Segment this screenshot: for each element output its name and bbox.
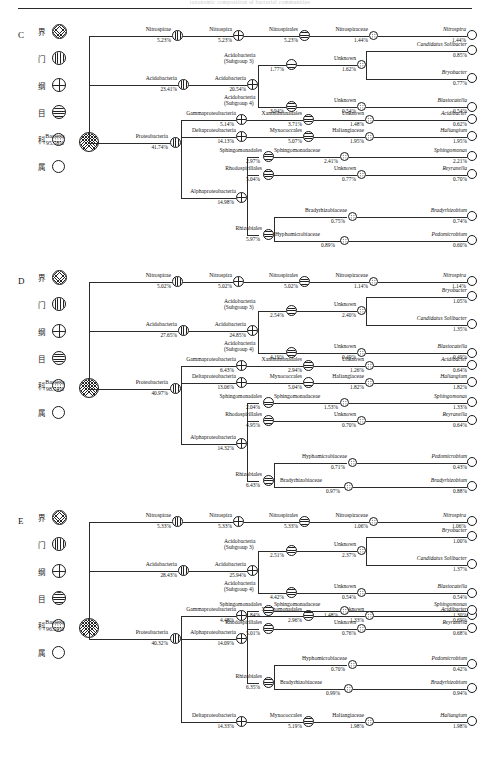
root-branch-acido-C	[89, 85, 119, 86]
order-pct-sphingomonadales-D: 2.04%	[200, 404, 260, 410]
edge-family-genus-bradyrhizobium-D	[353, 487, 467, 488]
family-node-haliangiaceae-E	[365, 717, 374, 726]
order-pct-sphingomonadales-E: 1.84%	[200, 612, 260, 618]
genus-pct-sphingomonas-C: 2.21%	[404, 158, 467, 164]
class-node-icon	[52, 324, 66, 338]
edge-order-family-nitrospiraceae-D	[310, 282, 369, 283]
family-node-sg3-D	[357, 306, 366, 315]
order-node-rhizobiales-C	[263, 229, 274, 240]
family-label-sphingomonadaceae-C: Sphingomonadaceae	[274, 147, 340, 153]
family-label-nitrospiraceae-D: Nitrospiraceae	[312, 272, 368, 278]
order-pct-myxococcales-C: 5.07%	[250, 138, 302, 144]
edge-order-family-nitrospiraceae-C	[310, 36, 369, 37]
phylum-label-acidobacteria-C: Acidobacteria	[119, 75, 177, 81]
phylum-pct-nitrospirae-C: 5.23%	[119, 37, 171, 43]
genus-pct-blastocatella-E: 0.54%	[400, 594, 467, 600]
family-node-sphingomonadaceae-D	[340, 398, 349, 407]
genus-node-haliangium-D	[467, 377, 477, 387]
family-label-sg4-C: Unknown	[306, 97, 356, 103]
top-rule-divider	[18, 8, 472, 9]
order-node-icon	[52, 105, 66, 119]
class-pct-acidobacteria-C: 20.54%	[190, 86, 246, 92]
genus-node-nitrospira-E	[467, 516, 477, 526]
legend-row-kingdom-D: 界	[36, 270, 67, 284]
root-branch-nitrospirae-C	[89, 36, 119, 37]
class-label-delta-E: Deltaproteobacteria	[160, 712, 236, 718]
order-pct-nitrospirales-D: 5.02%	[246, 283, 298, 289]
order-label-nitrospirales-D: Nitrospirales	[246, 272, 298, 278]
genus-label-bradyrhizobium-C: Bradyrhizobium	[400, 207, 467, 213]
legend-row-class-E: 纲	[36, 564, 66, 578]
genus-label-sphingomonas-C: Sphingomonas	[404, 147, 467, 153]
order-node-rhodospirillales-D	[263, 415, 274, 426]
order-label-nitrospirales-E: Nitrospirales	[246, 512, 298, 518]
order-node-xanthomonadales-D	[303, 360, 314, 371]
rhizobiales-split-D	[274, 463, 275, 487]
order-node-sphingomonadales-D	[263, 397, 274, 408]
family-label-rhodo-D: Unknown	[306, 411, 356, 417]
panel-letter-C: C	[18, 30, 24, 40]
genus-pct-solibacter-E: 1.37%	[378, 566, 467, 572]
phylum-pct-acidobacteria-E: 28.43%	[119, 572, 177, 578]
genus-node-sphingomonas-E	[467, 605, 477, 615]
edge-family-genus-reyranella-C	[366, 175, 467, 176]
order-node-icon	[52, 591, 66, 605]
genus-pct-pedomicrobium-D: 0.43%	[402, 464, 467, 470]
edge-family-genus-reyranella-E	[366, 629, 467, 630]
legend-row-class: 纲	[36, 78, 66, 92]
edge-root-nitrospirae-E	[119, 522, 172, 523]
class-label-nitrospira-C: Nitrospira	[186, 26, 232, 32]
genus-pct-haliangium-E: 1.98%	[408, 723, 467, 729]
edge-order-family-rhodo-C	[274, 175, 357, 176]
family-pct-hyphomicrobiaceae-D: 0.71%	[285, 464, 345, 470]
genus-node-solibacter-E	[467, 559, 477, 569]
family-pct-sphingomonadaceae-D: 1.53%	[274, 404, 338, 410]
class-pct-delta-E: 14.33%	[160, 723, 234, 729]
class-pct-acidobacteria-E: 25.94%	[190, 572, 246, 578]
genus-node-blastocatella-E	[467, 588, 477, 598]
family-label-gamma-C: Unknown	[316, 110, 364, 116]
genus-pct-reyranella-E: 0.68%	[408, 630, 467, 636]
edge-family-genus-bradyrhizobium-E	[353, 689, 467, 690]
genus-node-reyranella-E	[467, 623, 477, 633]
edge-order-family-sg3-E	[297, 551, 357, 552]
class-label-alpha-D: Alphaproteobacteria	[160, 434, 236, 440]
order-pct-myxococcales-E: 5.19%	[250, 723, 302, 729]
family-label-haliangiaceae-C: Haliangiaceae	[310, 127, 364, 133]
order-node-icon	[52, 351, 66, 365]
legend-row-genus-E: 属	[36, 645, 65, 659]
edge-phylum-class-acidobacteria-C	[189, 85, 247, 86]
legend-row-class-D: 纲	[36, 324, 66, 338]
family-node-rhodo-E	[357, 624, 366, 633]
genus-pct-sphingomonas-E: 1.30%	[404, 612, 467, 618]
panel-letter-E: E	[18, 516, 24, 526]
order-node-nitrospirales-D	[299, 276, 310, 287]
genus-node-sphingomonas-C	[467, 151, 477, 161]
family-pct-sg3-E: 2.37%	[306, 552, 356, 558]
class-node-icon	[52, 564, 66, 578]
family-split-sg3-C	[366, 51, 367, 79]
family-node-nitrospiraceae-D	[369, 277, 378, 286]
legend-label-phylum-E: 门	[36, 539, 47, 550]
family-label-hyphomicrobiaceae-D: Hyphomicrobiaceae	[285, 453, 347, 459]
genus-node-bradyrhizobium-C	[467, 211, 477, 221]
genus-node-pedomicrobium-C	[467, 235, 477, 245]
family-label-sg3-D: Unknown	[306, 301, 356, 307]
family-pct-sphingomonadaceae-C: 2.41%	[274, 158, 338, 164]
genus-label-haliangium-C: Haliangium	[408, 127, 467, 133]
edge-family-genus-acidibacter-D	[374, 366, 467, 367]
order-label-rhizobiales-E: Rhizobiales	[212, 673, 262, 679]
genus-label-reyranella-D: Reyranella	[408, 411, 467, 417]
family-pct-nitrospiraceae-D: 1.14%	[312, 283, 368, 289]
order-label-sg3-line2-C: (Subgroup 3)	[224, 58, 286, 64]
family-node-hyphomicrobiaceae-D	[348, 458, 357, 467]
edge-family-genus-sphingomonas-E	[349, 611, 467, 612]
order-node-rhodospirillales-E	[263, 623, 274, 634]
genus-pct-solibacter-C: 0.85%	[378, 52, 467, 58]
class-label-gamma-D: Gammaproteobacteria	[160, 356, 236, 362]
order-pct-rhizobiales-E: 6.35%	[212, 684, 260, 690]
family-label-rhodo-E: Unknown	[306, 619, 356, 625]
legend-row-kingdom-E: 界	[36, 510, 67, 524]
genus-label-pedomicrobium-C: Pedomicrobium	[402, 231, 467, 237]
genus-node-bryobacter-E	[467, 531, 477, 541]
